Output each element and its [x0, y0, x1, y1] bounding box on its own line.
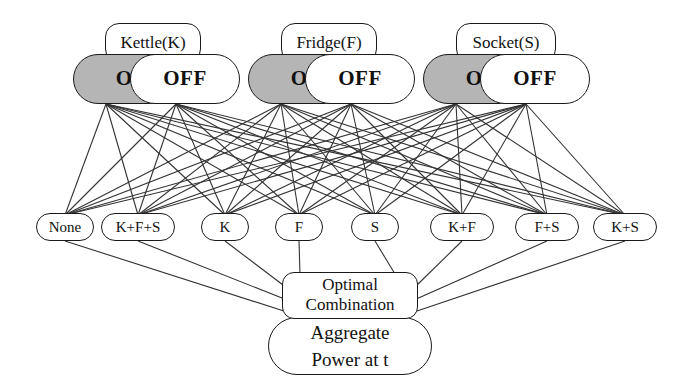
optimal-combination-line1: Optimal: [322, 275, 378, 294]
combination-node-fs[interactable]: F+S: [515, 213, 579, 241]
state-label: OFF: [163, 67, 207, 91]
optimal-combination-node[interactable]: Optimal Combination: [282, 272, 418, 319]
state-label: OFF: [338, 67, 382, 91]
aggregate-power-line2: Power at t: [311, 349, 388, 370]
state-label: OFF: [513, 67, 557, 91]
combination-node-none[interactable]: None: [36, 213, 94, 241]
combination-label: S: [371, 219, 379, 236]
combination-node-ks[interactable]: K+S: [593, 213, 657, 241]
combination-node-f[interactable]: F: [275, 213, 323, 241]
combination-node-kf[interactable]: K+F: [430, 213, 494, 241]
combination-label: F: [295, 219, 303, 236]
optimal-combination-line2: Combination: [306, 295, 395, 314]
device-state-fridge-off[interactable]: OFF: [305, 54, 415, 104]
device-label-text: Kettle(K): [120, 33, 185, 52]
combination-node-s[interactable]: S: [351, 213, 399, 241]
device-label-text: Socket(S): [472, 33, 539, 52]
combination-label: None: [49, 219, 82, 236]
combination-label: F+S: [534, 219, 559, 236]
combination-label: K+S: [611, 219, 639, 236]
combination-node-k[interactable]: K: [201, 213, 249, 241]
aggregate-power-node[interactable]: Aggregate Power at t: [268, 317, 432, 375]
combination-node-kfs[interactable]: K+F+S: [101, 213, 175, 241]
combination-label: K+F: [448, 219, 476, 236]
device-label-text: Fridge(F): [296, 33, 361, 52]
aggregate-power-line1: Aggregate: [310, 322, 389, 343]
combination-label: K+F+S: [116, 219, 160, 236]
combination-label: K: [220, 219, 231, 236]
device-state-kettle-off[interactable]: OFF: [130, 54, 240, 104]
diagram-canvas: Kettle(K) ON OFF Fridge(F) ON OFF Socket…: [0, 0, 685, 388]
device-state-socket-off[interactable]: OFF: [480, 54, 590, 104]
